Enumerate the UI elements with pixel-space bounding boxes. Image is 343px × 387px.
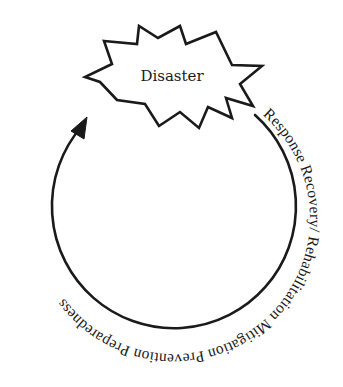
disaster-cycle-diagram: Disaster Response Recovery/ Rehabilitati… — [0, 0, 343, 387]
disaster-label: Disaster — [140, 67, 204, 85]
cycle-arc — [52, 115, 296, 328]
